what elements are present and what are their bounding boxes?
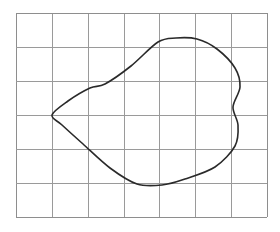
figure-container: [0, 0, 280, 232]
grid-chart-svg: [0, 0, 280, 232]
